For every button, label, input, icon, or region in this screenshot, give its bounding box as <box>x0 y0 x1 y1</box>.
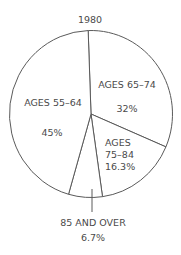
pie-slices <box>9 30 172 197</box>
slice-label-55-64: AGES 55–64 <box>24 97 82 108</box>
slice-label-85-and-over: 85 AND OVER <box>60 217 126 228</box>
slice-value-85-and-over: 6.7% <box>81 232 105 243</box>
slice-value-75-84: 16.3% <box>105 161 135 172</box>
slice-label-75-84-line2: 75–84 <box>105 149 134 160</box>
slice-label-65-74: AGES 65–74 <box>98 79 156 90</box>
slice-value-65-74: 32% <box>116 103 137 114</box>
slice-value-55-64: 45% <box>41 127 62 138</box>
slice-label-75-84-line1: AGES <box>105 137 131 148</box>
pie-chart: 1980 AGES 65–74 32% AGES 75–84 16.3% 85 … <box>0 0 181 255</box>
chart-title: 1980 <box>78 14 102 25</box>
